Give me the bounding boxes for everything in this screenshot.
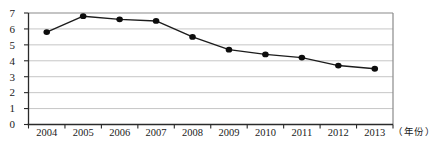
x-tick-label: 2012 [328, 127, 349, 138]
x-tick-label: 2006 [109, 127, 130, 138]
data-point-marker [80, 13, 87, 19]
x-tick-label: 2013 [364, 127, 385, 138]
y-tick-label: 0 [10, 118, 16, 130]
y-tick-label: 3 [10, 71, 16, 83]
y-tick-label: 4 [10, 55, 16, 67]
tick-labels-layer: 0123456720042005200620072008200920102011… [10, 7, 386, 138]
x-tick-label: 2009 [218, 127, 239, 138]
data-point-marker [299, 55, 306, 61]
data-point-marker [262, 52, 269, 58]
data-point-marker [153, 18, 160, 24]
gridlines-layer [29, 29, 394, 109]
data-point-marker [116, 16, 123, 22]
data-point-marker [189, 34, 196, 40]
axes-layer [24, 13, 393, 129]
chart-canvas: 0123456720042005200620072008200920102011… [0, 0, 438, 152]
data-point-marker [371, 66, 378, 72]
frame-layer [29, 13, 394, 125]
line-chart: 0123456720042005200620072008200920102011… [0, 0, 438, 152]
x-tick-label: 2007 [146, 127, 167, 138]
y-tick-label: 6 [10, 23, 16, 35]
x-tick-label: 2011 [292, 127, 313, 138]
series-layer [43, 13, 378, 71]
y-tick-label: 7 [10, 7, 16, 19]
x-tick-label: 2008 [182, 127, 203, 138]
x-tick-label: 2004 [36, 127, 58, 138]
y-tick-label: 5 [10, 39, 16, 51]
y-tick-label: 1 [10, 102, 16, 114]
x-tick-label: 2010 [255, 127, 276, 138]
x-tick-label: 2005 [73, 127, 94, 138]
data-point-marker [226, 47, 233, 53]
data-point-marker [43, 29, 50, 35]
y-tick-label: 2 [10, 86, 16, 98]
data-point-marker [335, 63, 342, 69]
x-axis-unit-label: （年份） [393, 126, 435, 137]
